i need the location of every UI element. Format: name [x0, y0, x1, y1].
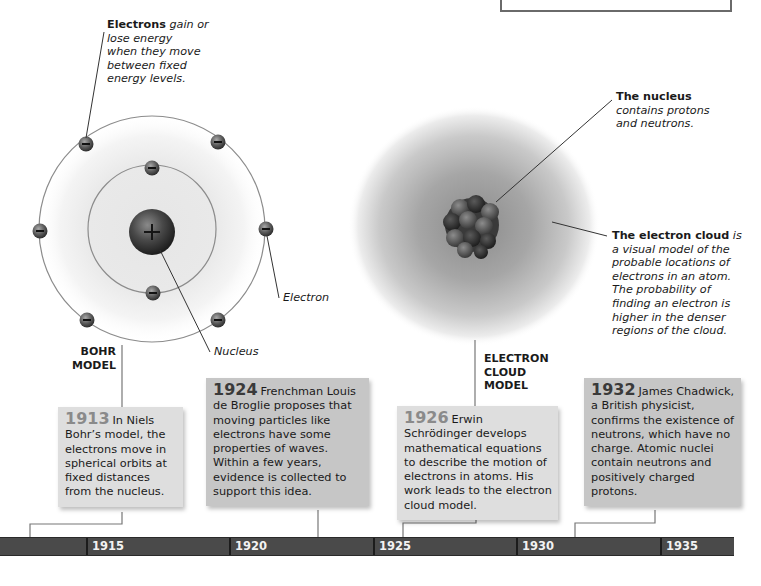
event-year: 1926 [404, 408, 449, 427]
callout-text: a visual model of the [612, 243, 730, 256]
electron-icon [79, 137, 94, 152]
callout-text: higher in the denser [612, 311, 726, 324]
bohr-label-line2: MODEL [72, 359, 116, 372]
callout-electrons: Electrons gain or lose energy when they … [107, 18, 217, 86]
electron-icon [80, 313, 95, 328]
callout-text: energy levels. [107, 72, 186, 85]
timeline-tick [660, 538, 662, 555]
event-box-1924: 1924Frenchman Louis de Broglie proposes … [206, 378, 369, 506]
event-year: 1913 [65, 409, 110, 428]
timeline-bar: 1915 1920 1925 1930 1935 [0, 537, 734, 556]
timeline-tick [86, 538, 88, 555]
callout-text: finding an electron is [612, 297, 730, 310]
electron-icon [211, 135, 226, 150]
event-text: Erwin Schrödinger develops mathematical … [404, 413, 552, 512]
label-nucleus: Nucleus [214, 345, 259, 359]
tick-label-1935: 1935 [666, 539, 698, 553]
cloud-label-line3: MODEL [484, 379, 528, 392]
label-nucleus-text: Nucleus [214, 345, 259, 358]
callout-nucleus: The nucleus contains protons and neutron… [616, 90, 746, 131]
tick-label-1930: 1930 [522, 539, 554, 553]
callout-nucleus-title: The nucleus [616, 90, 692, 103]
callout-text: probable locations of [612, 256, 730, 269]
bohr-model-label: BOHR MODEL [70, 345, 116, 372]
cloud-label-line2: CLOUD [484, 366, 526, 379]
tick-label-1925: 1925 [379, 539, 411, 553]
callout-text: is [733, 229, 742, 242]
timeline-tick [516, 538, 518, 555]
event-year: 1924 [213, 380, 258, 399]
callout-text: regions of the cloud. [612, 324, 727, 337]
electron-icon [146, 286, 161, 301]
electron-icon [259, 222, 274, 237]
electron-icon [211, 313, 226, 328]
timeline-tick [229, 538, 231, 555]
callout-text: gain or [169, 18, 208, 31]
event-text: Frenchman Louis de Broglie proposes that… [213, 385, 356, 498]
callout-electrons-title: Electrons [107, 18, 166, 31]
event-box-1926: 1926Erwin Schrödinger develops mathemati… [397, 406, 558, 520]
connector-1913 [30, 512, 122, 537]
timeline-tick [373, 538, 375, 555]
callout-text: electrons in an atom. [612, 270, 731, 283]
leader-electrons [86, 32, 104, 138]
tick-label-1915: 1915 [92, 539, 124, 553]
connector-1932 [575, 510, 655, 537]
label-electron: Electron [283, 291, 329, 305]
callout-text: and neutrons. [616, 117, 694, 130]
callout-electron-cloud: The electron cloud is a visual model of … [612, 229, 760, 338]
event-year: 1932 [591, 380, 636, 399]
callout-text: lose energy [107, 32, 172, 45]
event-box-1913: 1913In Niels Bohr’s model, the electrons… [58, 407, 183, 507]
tick-label-1920: 1920 [235, 539, 267, 553]
electron-icon [145, 161, 160, 176]
electron-icon [33, 224, 48, 239]
callout-text: The probability of [612, 283, 711, 296]
callout-text: contains protons [616, 104, 710, 117]
leader-electron [267, 236, 279, 298]
callout-text: between fixed [107, 59, 187, 72]
callout-text: when they move [107, 45, 201, 58]
label-electron-text: Electron [283, 291, 329, 304]
bohr-label-line1: BOHR [81, 345, 116, 358]
electron-cloud-atom [348, 100, 612, 346]
event-text: James Chadwick, a British physicist, con… [591, 385, 734, 498]
electron-cloud-model-label: ELECTRON CLOUD MODEL [484, 352, 549, 393]
callout-cloud-title: The electron cloud [612, 229, 729, 242]
cloud-label-line1: ELECTRON [484, 352, 549, 365]
event-box-1932: 1932James Chadwick, a British physicist,… [584, 378, 741, 506]
